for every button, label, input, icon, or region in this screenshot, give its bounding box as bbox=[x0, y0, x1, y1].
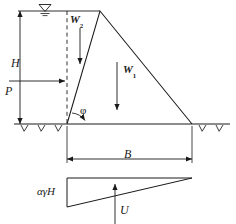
label-weight-w2: W2 bbox=[70, 14, 83, 28]
label-weight-w1: W1 bbox=[123, 64, 136, 78]
water-table-icon bbox=[39, 5, 51, 16]
label-thrust-p: P bbox=[5, 85, 12, 97]
label-uplift-resultant-u: U bbox=[120, 204, 129, 216]
ground-hatch-marks bbox=[21, 125, 223, 132]
uplift-pressure-triangle bbox=[67, 178, 192, 207]
label-base-width-b: B bbox=[124, 148, 131, 160]
label-friction-angle-phi: φ bbox=[80, 105, 86, 116]
label-height-h: H bbox=[11, 57, 20, 69]
dam-stability-diagram: W2 W1 H P φ B αγH U bbox=[0, 0, 236, 224]
diagram-canvas bbox=[0, 0, 236, 224]
label-uplift-pressure: αγH bbox=[37, 186, 55, 197]
